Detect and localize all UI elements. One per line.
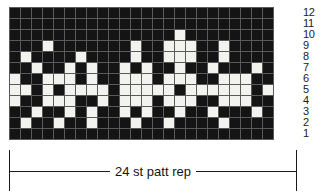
chart-cell bbox=[54, 41, 65, 52]
chart-cell bbox=[142, 8, 153, 19]
chart-cell bbox=[32, 30, 43, 41]
chart-cell bbox=[186, 85, 197, 96]
chart-cell bbox=[230, 129, 241, 140]
chart-cell bbox=[208, 52, 219, 63]
chart-cell bbox=[87, 107, 98, 118]
chart-cell bbox=[252, 63, 263, 74]
chart-cell bbox=[252, 19, 263, 30]
chart-cell bbox=[87, 30, 98, 41]
chart-row bbox=[10, 129, 274, 140]
chart-cell bbox=[65, 41, 76, 52]
chart-cell bbox=[21, 8, 32, 19]
chart-cell bbox=[65, 74, 76, 85]
chart-cell bbox=[219, 63, 230, 74]
chart-cell bbox=[109, 129, 120, 140]
chart-cell bbox=[164, 52, 175, 63]
chart-cell bbox=[54, 63, 65, 74]
chart-cell bbox=[241, 107, 252, 118]
chart-cell bbox=[263, 129, 274, 140]
chart-cell bbox=[230, 19, 241, 30]
chart-cell bbox=[98, 107, 109, 118]
chart-cell bbox=[186, 63, 197, 74]
chart-cell bbox=[142, 30, 153, 41]
chart-cell bbox=[65, 30, 76, 41]
chart-cell bbox=[197, 85, 208, 96]
chart-cell bbox=[98, 63, 109, 74]
chart-cell bbox=[230, 41, 241, 52]
chart-cell bbox=[76, 8, 87, 19]
chart-cell bbox=[76, 85, 87, 96]
chart-cell bbox=[98, 85, 109, 96]
chart-cell bbox=[32, 8, 43, 19]
chart-cell bbox=[98, 129, 109, 140]
chart-cell bbox=[186, 41, 197, 52]
chart-cell bbox=[197, 63, 208, 74]
chart-cell bbox=[43, 96, 54, 107]
chart-cell bbox=[252, 118, 263, 129]
chart-cell bbox=[32, 118, 43, 129]
chart-cell bbox=[142, 41, 153, 52]
chart-cell bbox=[43, 30, 54, 41]
chart-cell bbox=[98, 41, 109, 52]
chart-cell bbox=[131, 74, 142, 85]
chart-cell bbox=[109, 118, 120, 129]
chart-cell bbox=[241, 41, 252, 52]
chart-cell bbox=[21, 118, 32, 129]
chart-cell bbox=[153, 129, 164, 140]
chart-cell bbox=[153, 8, 164, 19]
chart-cell bbox=[87, 41, 98, 52]
chart-cell bbox=[109, 19, 120, 30]
chart-cell bbox=[21, 85, 32, 96]
chart-cell bbox=[65, 118, 76, 129]
chart-cell bbox=[21, 74, 32, 85]
chart-cell bbox=[98, 118, 109, 129]
chart-cell bbox=[164, 41, 175, 52]
chart-cell bbox=[230, 118, 241, 129]
chart-cell bbox=[54, 118, 65, 129]
chart-cell bbox=[98, 30, 109, 41]
chart-cell bbox=[241, 63, 252, 74]
chart-cell bbox=[186, 118, 197, 129]
chart-cell bbox=[131, 19, 142, 30]
chart-cell bbox=[263, 19, 274, 30]
chart-cell bbox=[142, 118, 153, 129]
chart-cell bbox=[76, 96, 87, 107]
chart-cell bbox=[120, 129, 131, 140]
chart-cell bbox=[120, 107, 131, 118]
chart-cell bbox=[32, 63, 43, 74]
chart-cell bbox=[241, 96, 252, 107]
chart-cell bbox=[219, 30, 230, 41]
chart-row bbox=[10, 52, 274, 63]
chart-cell bbox=[164, 85, 175, 96]
chart-cell bbox=[197, 107, 208, 118]
chart-cell bbox=[164, 74, 175, 85]
chart-cell bbox=[87, 96, 98, 107]
chart-row bbox=[10, 8, 274, 19]
chart-cell bbox=[241, 19, 252, 30]
chart-cell bbox=[98, 19, 109, 30]
chart-cell bbox=[54, 85, 65, 96]
chart-cell bbox=[219, 41, 230, 52]
chart-cell bbox=[175, 74, 186, 85]
chart-cell bbox=[21, 129, 32, 140]
chart-cell bbox=[32, 74, 43, 85]
chart-cell bbox=[241, 85, 252, 96]
chart-cell bbox=[208, 74, 219, 85]
chart-cell bbox=[241, 30, 252, 41]
chart-cell bbox=[219, 52, 230, 63]
chart-cell bbox=[43, 85, 54, 96]
chart-cell bbox=[76, 41, 87, 52]
chart-cell bbox=[76, 63, 87, 74]
chart-cell bbox=[241, 129, 252, 140]
chart-cell bbox=[109, 30, 120, 41]
chart-grid-table bbox=[9, 7, 274, 140]
chart-cell bbox=[32, 129, 43, 140]
chart-cell bbox=[10, 107, 21, 118]
chart-cell bbox=[131, 52, 142, 63]
chart-cell bbox=[120, 19, 131, 30]
chart-cell bbox=[153, 96, 164, 107]
chart-cell bbox=[219, 129, 230, 140]
chart-cell bbox=[21, 52, 32, 63]
chart-cell bbox=[153, 63, 164, 74]
chart-cell bbox=[131, 85, 142, 96]
